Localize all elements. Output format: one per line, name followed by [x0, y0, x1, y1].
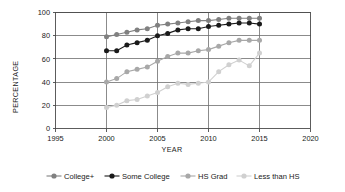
data-point: [257, 16, 262, 21]
data-point: [196, 48, 201, 53]
x-tick-label: 2015: [251, 134, 267, 143]
data-point: [226, 62, 231, 67]
data-point: [257, 22, 262, 27]
data-point: [247, 63, 252, 68]
data-point: [104, 48, 109, 53]
line-chart-svg: PERCENTAGE 020406080100 1995200020052010…: [0, 0, 345, 192]
data-point: [145, 94, 150, 99]
gridlines: [56, 13, 311, 129]
data-point: [216, 44, 221, 49]
y-tick-label: 0: [46, 124, 50, 133]
data-point: [186, 19, 191, 24]
data-point: [145, 26, 150, 31]
y-tick-label: 80: [42, 31, 50, 40]
data-point: [114, 103, 119, 108]
data-point: [135, 27, 140, 32]
legend-label: Some College: [122, 172, 170, 181]
data-point: [257, 38, 262, 43]
x-tick-label: 2000: [98, 134, 114, 143]
data-point: [186, 82, 191, 87]
data-series-layer: [104, 16, 262, 110]
data-point: [186, 51, 191, 56]
data-point: [104, 34, 109, 39]
data-point: [175, 81, 180, 86]
data-point: [135, 67, 140, 72]
data-point: [135, 40, 140, 45]
data-point: [206, 18, 211, 23]
legend-item-less-than-hs[interactable]: Less than HS: [237, 172, 300, 181]
legend-item-hs-grad[interactable]: HS Grad: [181, 172, 228, 181]
data-point: [196, 26, 201, 31]
data-point: [206, 24, 211, 29]
x-tick-label: 2005: [149, 134, 165, 143]
legend-marker-dot: [185, 173, 190, 178]
legend-marker-dot: [109, 173, 114, 178]
data-point: [186, 26, 191, 31]
x-tick-label: 2010: [200, 134, 216, 143]
x-tick-label: 2020: [302, 134, 318, 143]
data-point: [114, 48, 119, 53]
legend-label: HS Grad: [198, 172, 228, 181]
data-point: [216, 17, 221, 22]
data-point: [124, 98, 129, 103]
data-point: [237, 16, 242, 21]
data-point: [165, 31, 170, 36]
series-line: [107, 53, 260, 108]
plot-frame: [56, 13, 311, 129]
series-less-than-hs: [104, 51, 262, 111]
data-point: [206, 47, 211, 52]
y-tick-label: 100: [38, 8, 50, 17]
data-point: [247, 20, 252, 25]
data-point: [114, 76, 119, 81]
data-point: [257, 51, 262, 56]
data-point: [226, 40, 231, 45]
data-point: [247, 38, 252, 43]
series-line: [107, 23, 260, 51]
data-point: [155, 59, 160, 64]
data-point: [104, 105, 109, 110]
data-point: [216, 69, 221, 74]
legend-item-some-college[interactable]: Some College: [105, 172, 170, 181]
data-point: [145, 38, 150, 43]
data-point: [247, 16, 252, 21]
data-point: [155, 33, 160, 38]
chart-legend: College+Some CollegeHS GradLess than HS: [47, 172, 300, 181]
data-point: [165, 84, 170, 89]
y-tick-label: 40: [42, 78, 50, 87]
x-axis-title-text: YEAR: [162, 145, 183, 154]
data-point: [155, 23, 160, 28]
x-tick-label: 1995: [47, 134, 63, 143]
series-some-college: [104, 20, 262, 53]
data-point: [124, 69, 129, 74]
y-axis-ticks: 020406080100: [38, 8, 56, 133]
data-point: [175, 51, 180, 56]
data-point: [155, 90, 160, 95]
legend-label: College+: [64, 172, 95, 181]
data-point: [196, 18, 201, 23]
data-point: [165, 54, 170, 59]
plot-border: [56, 13, 311, 129]
data-point: [145, 65, 150, 70]
data-point: [175, 27, 180, 32]
y-tick-label: 20: [42, 101, 50, 110]
data-point: [237, 38, 242, 43]
data-point: [226, 16, 231, 21]
legend-marker-dot: [51, 173, 56, 178]
x-axis-ticks: 199520002005201020152020: [47, 129, 318, 143]
legend-label: Less than HS: [254, 172, 300, 181]
data-point: [196, 81, 201, 86]
x-axis-title: YEAR: [162, 145, 183, 154]
y-axis-title: PERCENTAGE: [11, 61, 20, 114]
data-point: [124, 42, 129, 47]
data-point: [237, 58, 242, 63]
data-point: [237, 20, 242, 25]
data-point: [175, 20, 180, 25]
legend-item-college[interactable]: College+: [47, 172, 95, 181]
y-axis-title-text: PERCENTAGE: [11, 61, 20, 114]
series-line: [107, 18, 260, 37]
data-point: [104, 80, 109, 85]
legend-marker-dot: [241, 173, 246, 178]
data-point: [216, 23, 221, 28]
chart-figure: PERCENTAGE 020406080100 1995200020052010…: [0, 0, 345, 192]
data-point: [124, 30, 129, 35]
